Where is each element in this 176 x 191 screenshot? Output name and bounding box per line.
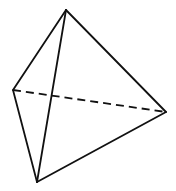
edge-bottom-right xyxy=(37,112,166,182)
tetrahedron-figure xyxy=(0,0,176,191)
edge-top-bottom xyxy=(37,10,66,182)
edge-top-right xyxy=(66,10,166,112)
edge-left-right-hidden xyxy=(13,90,166,112)
tetrahedron-diagram xyxy=(0,0,176,191)
edge-top-left xyxy=(13,10,66,90)
edge-left-bottom xyxy=(13,90,37,182)
